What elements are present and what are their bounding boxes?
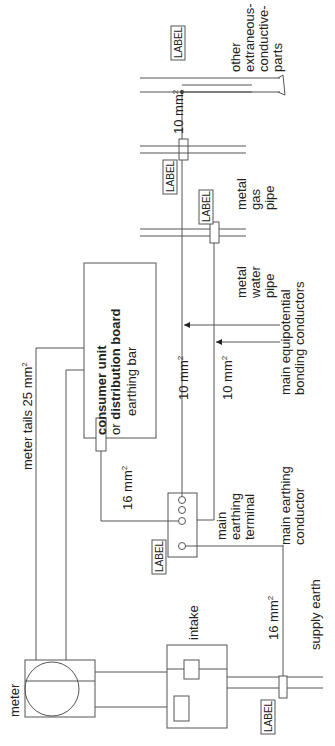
consumer-unit-subtitle: or distribution board <box>108 309 123 435</box>
meter-tails-size: meter tails 25 mm2 <box>20 362 35 470</box>
gas-pipe-label: metal gas pipe <box>234 175 277 210</box>
label-tag-other: LABEL <box>171 26 185 60</box>
consumer-unit-title: consumer unit <box>94 345 109 435</box>
other-parts-label: other extraneous- conductive- parts <box>228 0 285 72</box>
svg-text:LABEL: LABEL <box>173 26 184 58</box>
svg-text:LABEL: LABEL <box>165 160 176 192</box>
main-earthing-conductor-size: 16 mm2 <box>266 595 281 640</box>
meter <box>25 660 95 717</box>
intake-label: intake <box>186 605 201 640</box>
svg-text:LABEL: LABEL <box>201 190 212 222</box>
earthing-bar-label: earthing bar <box>124 346 139 416</box>
label-tag-met: LABEL <box>152 540 166 574</box>
label-tag-water: LABEL <box>199 190 213 224</box>
supply-earth-clamp <box>279 676 287 698</box>
earthing-bar-size: 16 mm2 <box>120 465 135 510</box>
bonding-label: main equipotential bonding conductors <box>278 281 307 395</box>
svg-text:LABEL: LABEL <box>263 700 274 732</box>
label-tag-gas: LABEL <box>163 160 177 194</box>
svg-text:LABEL: LABEL <box>154 540 165 572</box>
meter-label: meter <box>7 683 22 717</box>
water-pipe-label: metal water pipe <box>234 263 277 299</box>
main-earthing-conductor-label: main earthing conductor <box>278 463 307 545</box>
met-label: main earthing terminal <box>214 489 257 540</box>
gas-pipe <box>140 146 246 153</box>
bonding-gas-size: 10 mm2 <box>176 355 191 400</box>
bonding-water-size: 10 mm2 <box>220 355 235 400</box>
supply-earth-label: supply earth <box>308 579 323 650</box>
bonding-arrows <box>184 322 280 345</box>
bonding-other-size: 10 mm2 <box>171 89 186 134</box>
label-tag-supply-earth: LABEL <box>261 700 275 734</box>
intake <box>167 645 323 728</box>
earthing-bonding-diagram: meter meter tails 25 mm2 intake supply e… <box>0 0 335 746</box>
